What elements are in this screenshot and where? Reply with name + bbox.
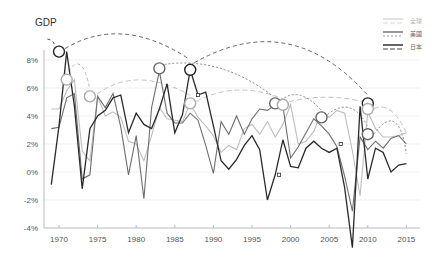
peak-marker-circle (84, 91, 95, 102)
legend-item-world: 全球 (383, 17, 422, 24)
peak-arrow (289, 97, 368, 103)
series-line-2 (51, 52, 406, 248)
x-tick-label: 2005 (320, 235, 338, 244)
legend: 全球 美國 日本 (383, 17, 422, 51)
axes: 8%6%4%2%0%-2%-4%197019751980198519901995… (24, 50, 420, 244)
peak-marker-circle (185, 98, 196, 109)
peak-arrows (47, 34, 406, 154)
chart-svg: 8%6%4%2%0%-2%-4%197019751980198519901995… (0, 0, 443, 265)
peak-marker-circle (362, 129, 373, 140)
peak-arrow (164, 63, 273, 96)
peak-marker-circle (61, 74, 72, 85)
legend-item-us: 美國 (383, 30, 422, 38)
peak-marker-circle (277, 99, 288, 110)
y-tick-label: -4% (24, 224, 38, 233)
peak-marker-circle (185, 64, 196, 75)
x-tick-label: 2015 (398, 235, 416, 244)
peak-marker-circle (154, 63, 165, 74)
peak-arrow (65, 34, 187, 58)
y-tick-label: -2% (24, 196, 38, 205)
small-marker (277, 173, 280, 176)
small-marker (339, 142, 342, 145)
x-tick-label: 2000 (282, 235, 300, 244)
y-tick-label: 8% (26, 56, 38, 65)
x-tick-label: 1975 (89, 235, 107, 244)
series-line-1 (51, 71, 406, 211)
x-tick-label: 1970 (50, 235, 68, 244)
y-tick-label: 6% (26, 84, 38, 93)
peak-arrow (374, 107, 407, 133)
y-tick-label: 4% (26, 112, 38, 121)
series-line-0 (51, 80, 406, 196)
x-tick-label: 1990 (205, 235, 223, 244)
series-lines (51, 52, 406, 248)
peak-marker-circle (316, 112, 327, 123)
small-marker (196, 93, 199, 96)
x-tick-label: 1995 (243, 235, 261, 244)
chart-title: GDP (35, 17, 57, 28)
legend-item-japan: 日本 (383, 43, 422, 51)
gdp-chart: 8%6%4%2%0%-2%-4%197019751980198519901995… (0, 0, 443, 265)
legend-label-us: 美國 (410, 30, 422, 38)
x-tick-label: 1980 (127, 235, 145, 244)
y-tick-label: 0% (26, 168, 38, 177)
peak-arrow (196, 90, 283, 101)
y-tick-label: 2% (26, 140, 38, 149)
x-tick-label: 2010 (359, 235, 377, 244)
x-tick-label: 1985 (166, 235, 184, 244)
peak-markers (54, 46, 374, 176)
peak-marker-circle (54, 46, 65, 57)
legend-label-japan: 日本 (410, 43, 422, 51)
peak-marker-circle (362, 104, 373, 115)
peak-arrow (47, 39, 54, 46)
legend-label-world: 全球 (410, 17, 422, 24)
